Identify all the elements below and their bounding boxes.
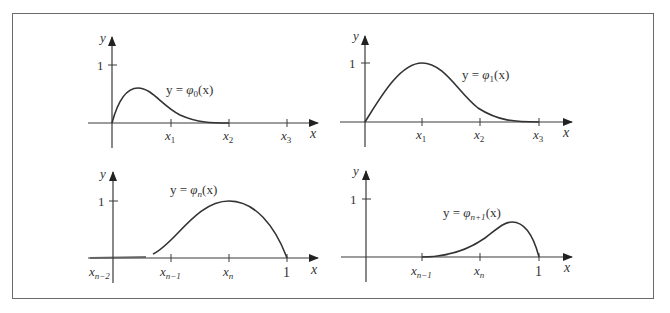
y-tick-label: 1 (98, 194, 105, 209)
y-axis-label: y (351, 28, 359, 43)
panel-phin: y 1 x y = φn(x) xn−2 xn−1 xn 1 (88, 166, 318, 283)
panel-phi0: y 1 x y = φ0(x) x1 x2 x3 (88, 30, 318, 148)
x-tick-label-1: x1 (164, 128, 175, 145)
origin-label: xn−2 (88, 264, 110, 281)
x-tick-label-1: x1 (415, 127, 426, 144)
y-tick-label: 1 (97, 58, 104, 73)
x-axis-label: x (310, 262, 318, 277)
y-axis-label: y (351, 163, 359, 178)
x-tick-label-3: 1 (535, 264, 542, 279)
x-tick-label-2: x2 (473, 127, 484, 144)
x-axis-label: x (562, 125, 570, 140)
x-tick-label-1: xn−1 (159, 264, 181, 281)
curve-label: y = φn(x) (170, 182, 217, 199)
curve-label: y = φn+1(x) (443, 205, 501, 222)
y-axis-label: y (98, 166, 106, 181)
x-tick-label-2: xn (473, 263, 485, 280)
curve-phi1 (365, 63, 539, 122)
basis-functions-figure: y 1 x y = φ0(x) x1 x2 x3 y 1 x y = φ1(x)… (0, 0, 670, 313)
curve-label: y = φ0(x) (166, 82, 213, 99)
smudge (90, 257, 146, 258)
curve-phin1 (422, 222, 539, 257)
x-tick-label-1: xn−1 (410, 263, 432, 280)
y-tick-label: 1 (349, 56, 356, 71)
x-tick-label-3: 1 (283, 265, 290, 280)
x-tick-label-3: x3 (280, 128, 292, 145)
panel-phin1: y 1 x y = φn+1(x) xn−1 xn 1 (341, 163, 572, 282)
y-tick-label: 1 (350, 192, 357, 207)
y-axis-label: y (98, 30, 106, 45)
x-tick-label-2: xn (222, 264, 234, 281)
x-tick-label-2: x2 (222, 128, 233, 145)
x-axis-label: x (309, 126, 317, 141)
x-axis-label: x (563, 260, 571, 275)
x-tick-label-3: x3 (532, 127, 544, 144)
panel-phi1: y 1 x y = φ1(x) x1 x2 x3 (340, 28, 572, 147)
curve-phin (153, 201, 287, 258)
curve-label: y = φ1(x) (462, 67, 509, 84)
